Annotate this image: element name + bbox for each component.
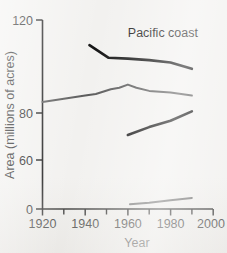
series-upper-gray-line [43,85,192,102]
y-tick-label-0: 0 [26,203,33,217]
y-tick-label-120: 120 [12,14,33,28]
panel-label-pacific-coast: Pacific coast [128,26,199,40]
chart-figure: 120 80 60 0 1920 1940 1960 1980 2000 Yea… [0,0,227,253]
x-tick-label-1960: 1960 [114,217,142,231]
series-lower-black-line [128,111,192,135]
x-tick-label-1980: 1980 [157,217,185,231]
series-lower-gray-line [130,198,192,204]
y-tick-label-80: 80 [19,107,33,121]
y-axis-title: Area (millions of acres) [3,51,17,179]
series-upper-black-line [89,45,191,69]
y-axis-ticks [36,20,43,209]
x-axis-major-ticks [43,209,214,216]
x-tick-label-1920: 1920 [29,217,57,231]
series-group [43,45,192,204]
x-tick-label-2000: 2000 [197,217,225,231]
line-chart-canvas: 120 80 60 0 1920 1940 1960 1980 2000 Yea… [0,0,227,253]
x-tick-label-1940: 1940 [71,217,99,231]
x-axis-title: Year [124,236,149,250]
y-tick-label-60: 60 [19,154,33,168]
